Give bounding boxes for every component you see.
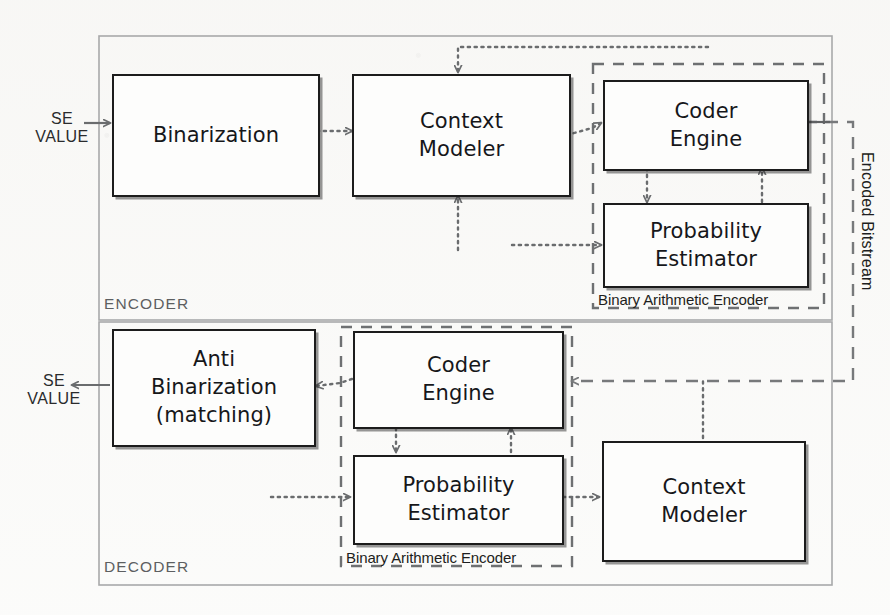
decoder-bae-group-label: Binary Arithmetic Encoder [346,549,516,566]
encoder-se-value-line-1: SE [51,110,73,127]
decoder-se-value-output-label: SE VALUE [23,372,85,408]
block-encoder-coder-engine-line-1: Coder [670,98,743,126]
block-encoder-probability-estimator-line-2: Estimator [650,246,762,274]
encoder-se-value-line-2: VALUE [35,128,88,145]
block-encoder-context-modeler-line-1: Context [419,108,504,136]
block-decoder-coder-engine-line-1: Coder [422,352,495,380]
encoded-bitstream-label: Encoded Bitstream [858,152,876,291]
encoder-section-label: ENCODER [104,295,189,313]
block-binarization-line-1: Binarization [153,122,279,150]
block-decoder-context-modeler-line-2: Modeler [661,502,746,530]
encoder-se-value-input-label: SE VALUE [31,110,93,146]
diagram-canvas: Binarization Context Modeler Coder Engin… [0,0,890,615]
block-encoder-probability-estimator[interactable]: Probability Estimator [603,203,809,288]
block-decoder-anti-binarization-line-2: Binarization [151,374,277,402]
block-encoder-context-modeler-line-2: Modeler [419,136,504,164]
block-decoder-context-modeler-line-1: Context [661,474,746,502]
block-decoder-context-modeler[interactable]: Context Modeler [602,441,806,562]
encoder-bae-group-label: Binary Arithmetic Encoder [598,291,768,308]
connector-top-feedback-to-context-modeler [458,47,708,72]
block-decoder-anti-binarization-line-3: (matching) [151,402,277,430]
block-decoder-probability-estimator-line-2: Estimator [402,500,514,528]
connector-dec-coder-to-anti-binarization [316,379,352,386]
decoder-se-value-line-1: SE [43,372,65,389]
block-decoder-probability-estimator[interactable]: Probability Estimator [353,455,564,545]
decoder-section-label: DECODER [104,558,189,576]
block-decoder-coder-engine-line-2: Engine [422,380,495,408]
connector-context-modeler-to-coder-engine [567,123,601,135]
block-binarization[interactable]: Binarization [112,74,320,197]
block-decoder-coder-engine[interactable]: Coder Engine [353,331,564,429]
block-encoder-coder-engine[interactable]: Coder Engine [603,80,809,171]
block-decoder-probability-estimator-line-1: Probability [402,472,514,500]
block-encoder-probability-estimator-line-1: Probability [650,218,762,246]
block-decoder-anti-binarization-line-1: Anti [151,346,277,374]
block-encoder-context-modeler[interactable]: Context Modeler [352,74,571,197]
block-encoder-coder-engine-line-2: Engine [670,126,743,154]
decoder-se-value-line-2: VALUE [27,390,80,407]
block-decoder-anti-binarization[interactable]: Anti Binarization (matching) [112,329,316,447]
